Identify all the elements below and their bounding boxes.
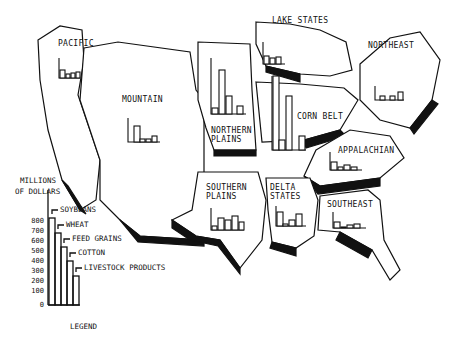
legend-category-feed-grains: FEED GRAINS	[72, 234, 122, 243]
legend-tick: 800	[24, 217, 44, 225]
legend-tick: 100	[24, 287, 44, 295]
legend-unit-line1: MILLIONS	[20, 176, 56, 185]
legend-tick: 400	[24, 257, 44, 265]
region-label-delta-states: DELTA STATES	[270, 183, 301, 201]
legend-category-livestock-products: LIVESTOCK PRODUCTS	[84, 263, 165, 272]
legend-tick: 500	[24, 247, 44, 255]
legend-tick: 200	[24, 277, 44, 285]
region-label-pacific: PACIFIC	[58, 39, 94, 48]
legend-tick: 600	[24, 237, 44, 245]
legend-tick: 700	[24, 227, 44, 235]
region-label-appalachian: APPALACHIAN	[338, 146, 394, 155]
region-label-mountain: MOUNTAIN	[122, 95, 163, 104]
legend-category-wheat: WHEAT	[66, 220, 89, 229]
legend-unit-line2: OF DOLLARS	[15, 187, 60, 196]
region-label-southeast: SOUTHEAST	[327, 200, 373, 209]
region-label-northeast: NORTHEAST	[368, 41, 414, 50]
legend-category-soybeans: SOYBEANS	[60, 205, 96, 214]
region-label-northern-plains: NORTHERN PLAINS	[211, 126, 252, 144]
region-label-corn-belt: CORN BELT	[297, 112, 343, 121]
region-label-southern-plains: SOUTHERN PLAINS	[206, 183, 247, 201]
us-regions-map	[0, 0, 450, 337]
region-label-lake-states: LAKE STATES	[272, 16, 328, 25]
legend-tick: 0	[24, 301, 44, 309]
legend-tick: 300	[24, 267, 44, 275]
legend-category-cotton: COTTON	[78, 248, 105, 257]
legend-title: LEGEND	[70, 322, 97, 331]
